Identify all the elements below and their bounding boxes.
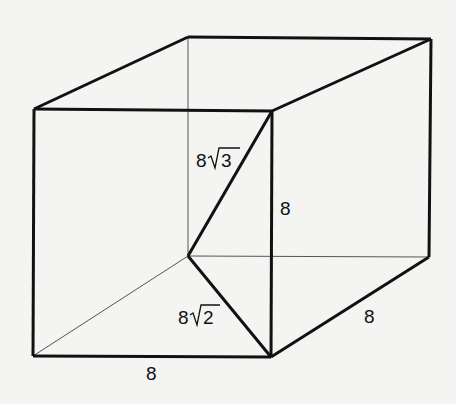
face-diagonal-coef: 8 <box>178 307 189 328</box>
front-right-edge <box>271 111 272 357</box>
cube-diagram: 8 3 8 2 8 8 8 <box>0 0 456 404</box>
space-diagonal <box>188 111 272 256</box>
label-bottom-depth-edge: 8 <box>364 306 375 327</box>
label-space-diagonal: 8 3 <box>196 148 240 171</box>
label-face-diagonal: 8 2 <box>178 305 220 328</box>
space-diagonal-coef: 8 <box>196 150 207 171</box>
top-right-depth-edge <box>272 39 431 111</box>
top-left-depth-edge <box>34 37 188 109</box>
bottom-right-depth-edge <box>271 257 429 357</box>
space-diagonal-rad: 3 <box>221 150 232 171</box>
hidden-back-bottom-edge <box>188 256 429 257</box>
label-bottom-front-edge: 8 <box>146 363 157 384</box>
front-top-edge <box>34 109 272 111</box>
front-left-edge <box>33 109 34 356</box>
hidden-bottom-left-depth-edge <box>33 256 188 356</box>
label-front-vertical-edge: 8 <box>280 198 291 219</box>
back-right-edge <box>429 39 431 257</box>
face-diagonal-rad: 2 <box>203 307 214 328</box>
front-bottom-edge <box>33 356 271 357</box>
top-back-edge <box>188 37 431 39</box>
